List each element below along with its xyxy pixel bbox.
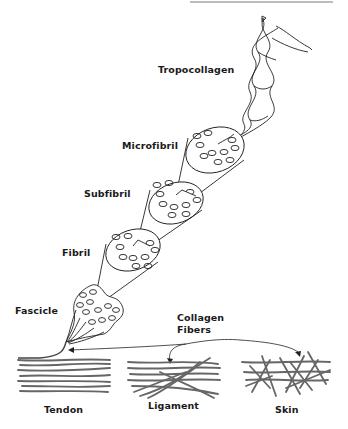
collagen-fibers-arrows — [70, 339, 300, 362]
arrow-head-icon — [295, 351, 301, 357]
label-fibril: Fibril — [62, 247, 90, 258]
arrow-head-icon — [68, 347, 74, 353]
tendon-fiber-link — [18, 342, 66, 358]
subfibril-cross-section-icon — [143, 175, 209, 232]
label-fascicle: Fascicle — [15, 305, 58, 316]
skin-fibers-illustration — [242, 352, 330, 396]
tendon-fibers-illustration — [18, 359, 110, 392]
collagen-hierarchy-diagram: Tropocollagen Microfibril Subfibril Fibr… — [0, 0, 348, 429]
ligament-fibers-illustration — [128, 358, 220, 398]
label-microfibril: Microfibril — [122, 140, 178, 151]
label-collagen-fibers: Collagen Fibers — [177, 312, 224, 336]
tropocollagen-helix-icon — [226, 16, 312, 146]
label-skin: Skin — [275, 404, 299, 415]
label-tropocollagen: Tropocollagen — [158, 64, 234, 75]
fibril-cross-section-icon — [100, 222, 166, 279]
microfibril-cross-section-icon — [179, 119, 250, 181]
label-ligament: Ligament — [148, 400, 199, 411]
label-subfibril: Subfibril — [84, 188, 131, 199]
label-tendon: Tendon — [44, 404, 83, 415]
